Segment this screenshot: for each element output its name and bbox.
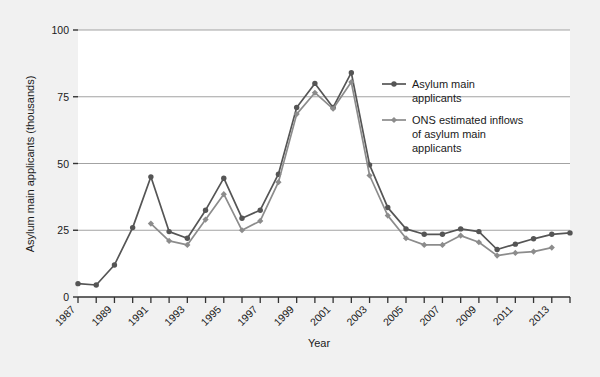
y-axis-title: Asylum main applicants (thousands) [24, 76, 36, 253]
data-point-marker [494, 247, 499, 252]
x-tick-label: 1991 [125, 303, 150, 328]
line-chart: 0255075100 19871989199119931995199719992… [0, 0, 600, 377]
x-tick-label: 2001 [308, 303, 333, 328]
x-tick-label: 1989 [89, 303, 114, 328]
legend-marker-1 [391, 81, 396, 86]
x-tick-label: 1993 [162, 303, 187, 328]
data-point-marker [567, 230, 572, 235]
data-point-marker [403, 226, 408, 231]
data-point-marker [422, 232, 427, 237]
data-point-marker [130, 225, 135, 230]
x-tick-label: 1987 [52, 303, 77, 328]
data-point-marker [94, 282, 99, 287]
data-point-marker [476, 229, 481, 234]
legend-label-2: ONS estimated inflows [412, 114, 524, 126]
x-tick-label: 2003 [344, 303, 369, 328]
y-tick-label: 50 [57, 158, 69, 170]
y-axis-ticks: 0255075100 [51, 24, 78, 303]
data-point-marker [185, 236, 190, 241]
x-tick-label: 2009 [453, 303, 478, 328]
legend-label-1: applicants [412, 92, 462, 104]
data-point-marker [294, 105, 299, 110]
x-tick-label: 1997 [235, 303, 260, 328]
x-tick-label: 2011 [490, 303, 515, 328]
data-point-marker [203, 208, 208, 213]
chart-figure: 0255075100 19871989199119931995199719992… [0, 0, 600, 377]
x-axis-title: Year [308, 337, 331, 349]
data-point-marker [513, 241, 518, 246]
data-point-marker [148, 174, 153, 179]
legend-label-1: Asylum main [412, 78, 475, 90]
x-tick-label: 1999 [271, 303, 296, 328]
legend-label-2: applicants [412, 142, 462, 154]
x-tick-label: 2013 [526, 303, 551, 328]
data-point-marker [258, 208, 263, 213]
data-point-marker [349, 70, 354, 75]
y-tick-label: 100 [51, 24, 69, 36]
x-tick-label: 1995 [198, 303, 223, 328]
data-point-marker [75, 281, 80, 286]
data-point-marker [440, 232, 445, 237]
data-point-marker [549, 232, 554, 237]
data-point-marker [458, 226, 463, 231]
data-point-marker [239, 216, 244, 221]
data-point-marker [221, 175, 226, 180]
data-point-marker [312, 81, 317, 86]
y-tick-label: 25 [57, 224, 69, 236]
x-tick-label: 2005 [380, 303, 405, 328]
data-point-marker [112, 262, 117, 267]
y-tick-label: 75 [57, 91, 69, 103]
data-point-marker [166, 229, 171, 234]
x-tick-label: 2007 [417, 303, 442, 328]
y-tick-label: 0 [63, 291, 69, 303]
legend-label-2: of asylum main [412, 128, 486, 140]
data-point-marker [531, 236, 536, 241]
x-axis-ticks: 1987198919911993199519971999200120032005… [52, 297, 570, 328]
